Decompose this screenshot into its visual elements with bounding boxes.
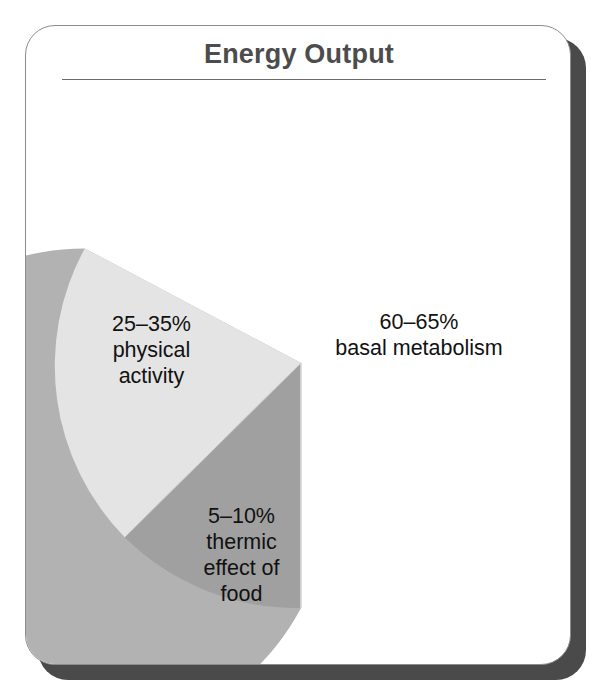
pie-label-physical-activity: 25–35% physical activity — [64, 311, 239, 389]
chart-card: Energy Output 60–65% basal metabo — [25, 25, 571, 665]
pie-label-basal-metabolism: 60–65% basal metabolism — [309, 309, 529, 361]
chart-stage: Energy Output 60–65% basal metabo — [0, 0, 602, 692]
pie-chart: 60–65% basal metabolism 25–35% physical … — [26, 26, 571, 665]
pie-label-thermic-effect-of-food: 5–10% thermic effect of food — [169, 503, 314, 607]
